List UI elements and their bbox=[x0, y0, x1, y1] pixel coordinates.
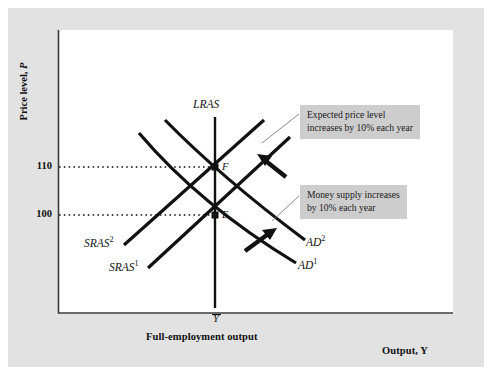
curve-label-ad1-text: AD bbox=[298, 259, 313, 271]
y-axis-title: Price level, P bbox=[18, 37, 29, 147]
curve-label-ad1-sup: 1 bbox=[313, 257, 317, 266]
callout-money-line1: Money supply increases bbox=[307, 189, 400, 202]
curve-label-ad2-text: AD bbox=[306, 236, 321, 248]
curve-label-sras2-sup: 2 bbox=[110, 235, 114, 244]
y-axis-title-text: Price level, bbox=[18, 69, 29, 121]
point-label-f: F bbox=[222, 161, 228, 172]
full-employment-marker: Y bbox=[206, 314, 226, 324]
curve-label-sras2-text: SRAS bbox=[84, 237, 110, 249]
figure-container: Price level, P 110 100 LRAS SRAS2 SRAS1 … bbox=[0, 0, 492, 376]
callout-money-supply: Money supply increases by 10% each year bbox=[300, 185, 407, 219]
x-axis-center-label: Full-employment output bbox=[146, 331, 258, 342]
curve-label-ad2-sup: 2 bbox=[321, 234, 325, 243]
y-tick-label-110: 110 bbox=[22, 160, 52, 171]
point-marker-e bbox=[212, 212, 219, 219]
y-axis-title-var: P bbox=[18, 63, 29, 69]
callout-expected-line1: Expected price level bbox=[307, 109, 413, 122]
callout-expected-leader bbox=[262, 114, 299, 143]
full-employment-marker-text: Y bbox=[213, 313, 219, 324]
curve-label-sras1: SRAS1 bbox=[109, 259, 139, 273]
curve-label-lras: LRAS bbox=[193, 98, 219, 110]
figure-graphics bbox=[0, 0, 492, 376]
curve-label-sras2: SRAS2 bbox=[84, 235, 114, 249]
curve-label-ad2: AD2 bbox=[306, 234, 325, 248]
callout-money-leader bbox=[272, 196, 299, 221]
curve-label-ad1: AD1 bbox=[298, 257, 317, 271]
point-label-e: E bbox=[222, 209, 228, 220]
callout-expected-price-level: Expected price level increases by 10% ea… bbox=[300, 105, 420, 139]
callout-expected-line2: increases by 10% each year bbox=[307, 122, 413, 135]
curve-label-sras1-sup: 1 bbox=[135, 259, 139, 268]
y-tick-label-100: 100 bbox=[22, 208, 52, 219]
x-axis-title: Output, Y bbox=[382, 345, 428, 356]
curve-label-sras1-text: SRAS bbox=[109, 261, 135, 273]
y-axis-title-wrap: Price level, P bbox=[14, 36, 30, 156]
point-marker-f bbox=[212, 164, 219, 171]
callout-money-line2: by 10% each year bbox=[307, 202, 400, 215]
